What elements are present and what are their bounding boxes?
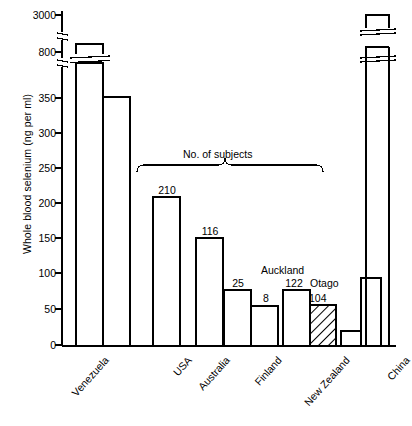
bar-finland-a: [224, 290, 251, 346]
bar-venezuela-1: [76, 44, 103, 346]
annotation-otago: Otago: [310, 277, 339, 289]
bar-china-1: [341, 331, 361, 346]
bar-label-finland-a: 25: [222, 277, 254, 289]
bar-china-3: [366, 15, 389, 346]
annotation-auckland: Auckland: [261, 264, 304, 276]
annotation-no-of-subjects: No. of subjects: [183, 148, 252, 160]
bar-label-nz-otago: 104: [309, 292, 341, 304]
bar-break-china-upper: [360, 29, 396, 35]
bar-label-australia: 116: [194, 225, 226, 237]
bar-break-venezuela-1: [70, 56, 110, 63]
bar-venezuela-2: [103, 97, 130, 346]
axis-break-lower: [57, 60, 68, 67]
axis-break-upper: [57, 33, 68, 40]
bar-china-2: [361, 278, 381, 346]
no-of-subjects-bracket: [137, 158, 323, 172]
bar-nz-otago: [310, 305, 336, 346]
bar-label-nz-auckland: 122: [278, 277, 310, 289]
bar-australia: [196, 238, 223, 346]
bar-finland-b: [251, 306, 278, 346]
bar-nz-auckland: [283, 290, 310, 346]
bar-label-usa: 210: [151, 184, 183, 196]
bar-label-finland-b: 8: [250, 292, 282, 304]
bar-usa: [153, 197, 180, 346]
